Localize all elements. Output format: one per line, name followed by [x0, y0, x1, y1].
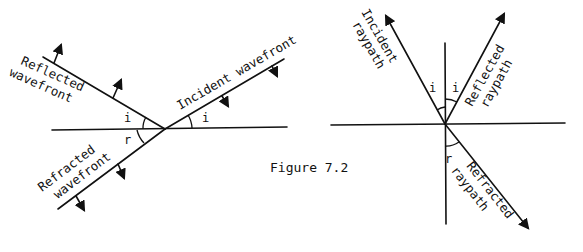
wavefront-diagram: i i r Reflected wavefront Incident wavef…	[7, 32, 299, 210]
raypath-diagram: i i r Incident raypath Reflected raypath…	[331, 6, 565, 230]
incident-wavefront-arrow-icon	[222, 96, 228, 106]
angle-label-reflected: i	[124, 111, 131, 125]
angle-arc-incident	[188, 115, 192, 128]
incident-wavefront-label: Incident wavefront	[174, 32, 299, 113]
refracted-wavefront-arrow-icon	[118, 164, 124, 178]
angle-arc-incident-ray	[437, 107, 445, 110]
angle-arc-refracted	[137, 130, 144, 143]
angle-label-refracted-ray: r	[445, 152, 452, 166]
reflected-wavefront-arrow-icon	[54, 45, 61, 63]
angle-arc-refracted-ray	[445, 142, 459, 146]
refracted-wavefront-arrow-icon	[76, 196, 84, 210]
angle-label-reflected-ray: i	[452, 81, 459, 95]
incident-raypath-arrow	[386, 16, 445, 124]
angle-label-incident-ray: i	[429, 81, 436, 95]
angle-label-refracted: r	[124, 133, 131, 147]
incident-wavefront-arrow-icon	[272, 66, 277, 76]
interface-line-right	[331, 123, 565, 125]
normal-line	[445, 43, 446, 224]
figure-7-2: i i r Reflected wavefront Incident wavef…	[0, 0, 583, 252]
svg-text:Incident wavefront: Incident wavefront	[174, 32, 299, 113]
angle-label-incident: i	[202, 111, 209, 125]
reflected-wavefront-arrow-icon	[113, 80, 121, 98]
refracted-wavefront-label: Refracted wavefront	[35, 137, 114, 207]
angle-arc-reflected-ray	[445, 99, 457, 102]
refracted-raypath-label: Refracted raypath	[448, 154, 517, 231]
incident-raypath-label: Incident raypath	[346, 6, 401, 73]
figure-caption: Figure 7.2	[270, 160, 348, 175]
interface-line-left	[52, 127, 287, 130]
angle-arc-reflected	[143, 117, 146, 129]
